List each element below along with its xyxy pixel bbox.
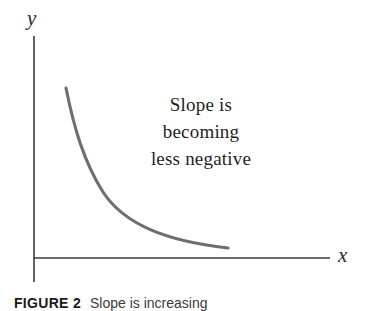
- x-axis-label: x: [338, 245, 347, 266]
- figure-caption: FIGURE 2Slope is increasing: [14, 295, 359, 311]
- annotation-line-3: less negative: [112, 146, 290, 173]
- figure-caption-text: Slope is increasing: [90, 295, 208, 311]
- figure-number: FIGURE 2: [14, 295, 81, 311]
- annotation-line-2: becoming: [112, 119, 290, 146]
- y-axis-label: y: [27, 8, 36, 29]
- annotation-line-1: Slope is: [112, 92, 290, 119]
- curve-annotation: Slope is becoming less negative: [112, 92, 290, 173]
- figure-container: y x Slope is becoming less negative FIGU…: [0, 0, 365, 311]
